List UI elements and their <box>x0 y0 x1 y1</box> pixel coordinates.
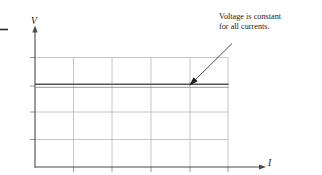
x-axis-ticks <box>74 167 229 172</box>
y-axis-arrowhead <box>32 26 37 33</box>
y-axis-label: V <box>31 17 37 27</box>
y-axis-ticks <box>30 58 35 140</box>
annotation-line-2: for all currents. <box>219 22 319 32</box>
x-axis <box>35 164 267 169</box>
voltage-data-line <box>35 84 229 87</box>
annotation-line-1: Voltage is constant <box>219 12 319 22</box>
figure-canvas: Voltage is constant for all currents. V … <box>0 0 322 175</box>
x-axis-label: I <box>268 159 271 169</box>
grid-horizontal <box>35 58 228 140</box>
y-axis <box>32 26 37 168</box>
x-axis-arrowhead <box>259 164 266 169</box>
annotation-callout: Voltage is constant for all currents. <box>219 12 319 32</box>
annotation-arrow <box>189 44 232 86</box>
